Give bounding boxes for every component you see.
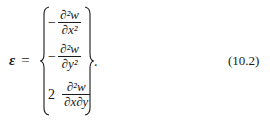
equation-number: (10.2) [228, 53, 259, 69]
row-prefix: − [48, 49, 58, 65]
numerator: ∂²w [58, 8, 81, 22]
vector-row-3: 2 ∂²w ∂x∂y [48, 80, 90, 109]
row-prefix: 2 [48, 87, 62, 103]
row-prefix: − [48, 15, 58, 31]
strain-vector-symbol: ε [9, 52, 15, 68]
vector-row-2: − ∂²w ∂y² [48, 42, 81, 71]
denominator: ∂y² [59, 57, 79, 71]
numerator: ∂²w [58, 42, 81, 56]
fraction: ∂²w ∂x² [58, 8, 81, 37]
fraction: ∂²w ∂x∂y [62, 80, 90, 109]
denominator: ∂x∂y [62, 95, 90, 109]
trailing-period: . [94, 54, 98, 70]
numerator: ∂²w [65, 80, 88, 94]
denominator: ∂x² [59, 23, 79, 37]
equation-lhs: ε= [9, 52, 30, 69]
equals-sign: = [21, 52, 29, 68]
fraction: ∂²w ∂y² [58, 42, 81, 71]
vector-row-1: − ∂²w ∂x² [48, 8, 81, 37]
